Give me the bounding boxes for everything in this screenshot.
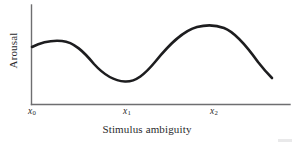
x-tick-label-x2: x2 bbox=[210, 107, 218, 117]
figure-container: x0 x1 x2 Stimulus ambiguity Arousal bbox=[0, 0, 294, 143]
x-axis-title: Stimulus ambiguity bbox=[0, 124, 294, 135]
arousal-curve bbox=[32, 25, 272, 81]
x-tick-label-x0: x0 bbox=[28, 107, 36, 117]
plot-canvas bbox=[0, 0, 294, 143]
page-corner-mark bbox=[278, 139, 292, 142]
y-axis-title: Arousal bbox=[8, 21, 19, 81]
x-tick-label-x1: x1 bbox=[123, 107, 131, 117]
